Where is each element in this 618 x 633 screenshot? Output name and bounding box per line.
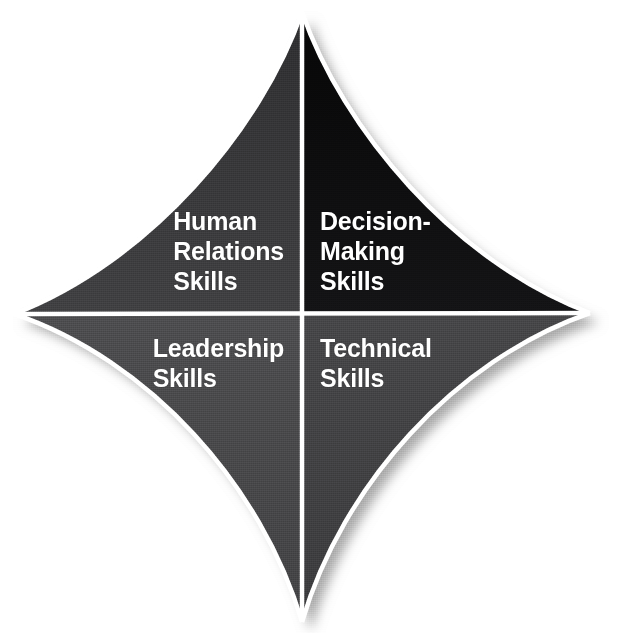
quadrant-label-human-relations: Human Relations Skills — [173, 206, 284, 296]
skills-diamond-diagram: Human Relations Skills Decision- Making … — [0, 0, 618, 633]
quadrant-label-leadership: Leadership Skills — [153, 333, 284, 393]
horizontal-divider — [14, 313, 590, 314]
diamond-shape-graphic — [0, 0, 618, 633]
quadrant-label-technical: Technical Skills — [320, 333, 432, 393]
quadrant-label-decision-making: Decision- Making Skills — [320, 206, 431, 296]
